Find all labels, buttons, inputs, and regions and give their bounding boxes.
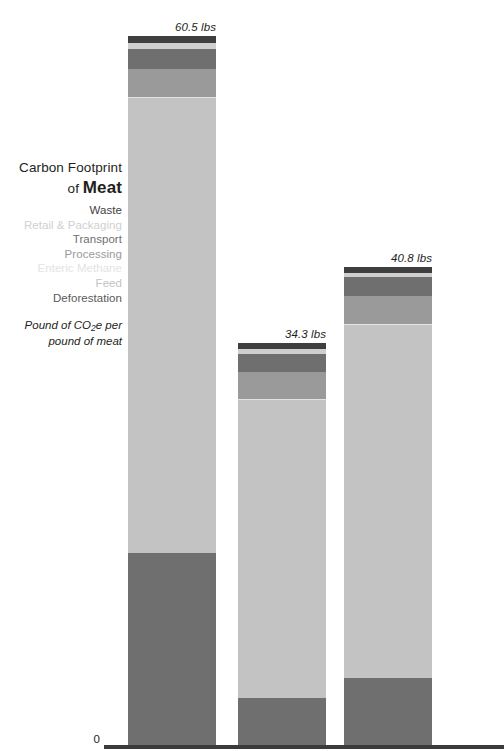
bar-segment-feed[interactable] xyxy=(344,325,432,678)
stacked-bar-3[interactable]: 40.8 lbs xyxy=(344,267,432,745)
plot-area: 60.5 lbs34.3 lbs40.8 lbs xyxy=(0,0,504,751)
bar-segment-processing[interactable] xyxy=(128,69,216,97)
bar-segment-deforestation[interactable] xyxy=(238,698,326,745)
bar-segment-feed[interactable] xyxy=(128,98,216,553)
bar-value-label-2: 34.3 lbs xyxy=(285,328,326,340)
bar-segment-feed[interactable] xyxy=(238,400,326,698)
x-axis-line xyxy=(104,745,504,749)
y-axis-zero-label: 0 xyxy=(80,733,100,745)
stacked-bar-2[interactable]: 34.3 lbs xyxy=(238,343,326,745)
bar-segment-deforestation[interactable] xyxy=(128,553,216,745)
bar-segment-processing[interactable] xyxy=(238,372,326,399)
stacked-bar-1[interactable]: 60.5 lbs xyxy=(128,36,216,745)
bar-segment-waste[interactable] xyxy=(128,36,216,43)
bar-segment-transport[interactable] xyxy=(128,49,216,69)
chart-canvas: Carbon Footprint of Meat WasteRetail & P… xyxy=(0,0,504,751)
bar-segment-transport[interactable] xyxy=(344,277,432,296)
bar-value-label-3: 40.8 lbs xyxy=(391,252,432,264)
bar-segment-deforestation[interactable] xyxy=(344,678,432,745)
bar-value-label-1: 60.5 lbs xyxy=(175,21,216,33)
bar-segment-processing[interactable] xyxy=(344,296,432,324)
bar-segment-transport[interactable] xyxy=(238,354,326,373)
